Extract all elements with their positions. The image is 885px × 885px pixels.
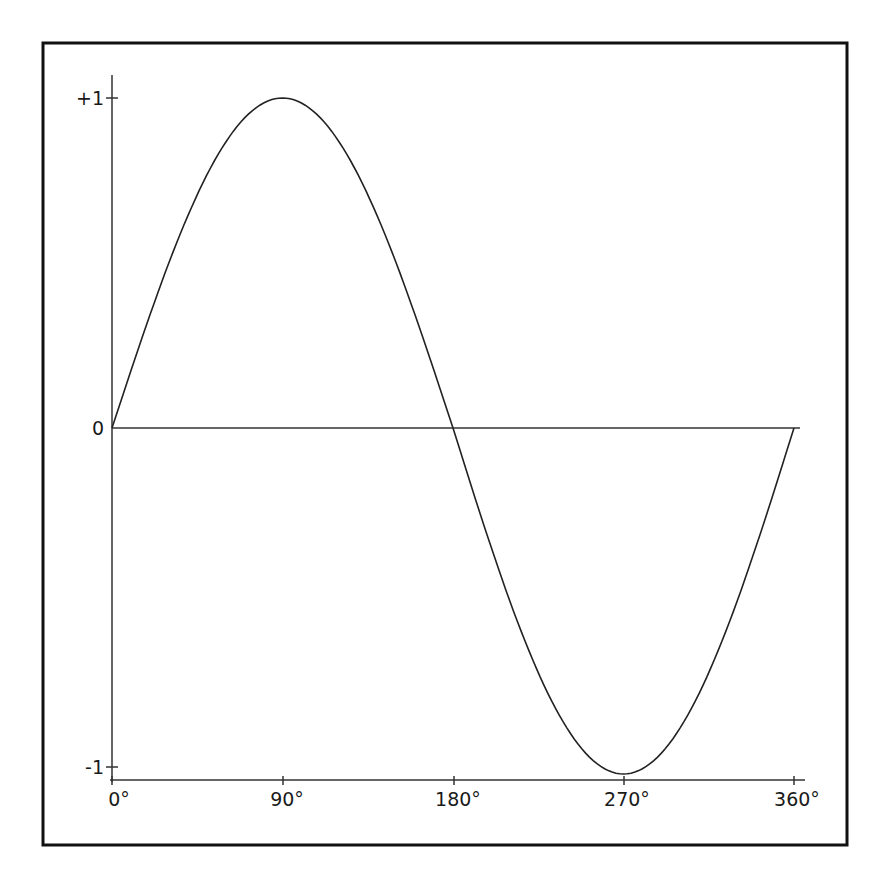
x-tick-label: 90°	[270, 788, 304, 810]
x-axis	[110, 776, 805, 785]
x-tick-label: 360°	[774, 788, 820, 810]
sine-wave-chart: +1 0 -1 0° 90° 180° 270° 360°	[0, 0, 885, 885]
sine-curve	[112, 98, 794, 774]
y-tick-label: 0	[92, 417, 104, 439]
y-tick-label: +1	[76, 87, 104, 109]
x-tick-label: 270°	[604, 788, 650, 810]
x-tick-label: 180°	[435, 788, 481, 810]
chart-frame	[43, 43, 847, 845]
x-tick-label: 0°	[108, 788, 130, 810]
y-tick-label: -1	[85, 756, 104, 778]
